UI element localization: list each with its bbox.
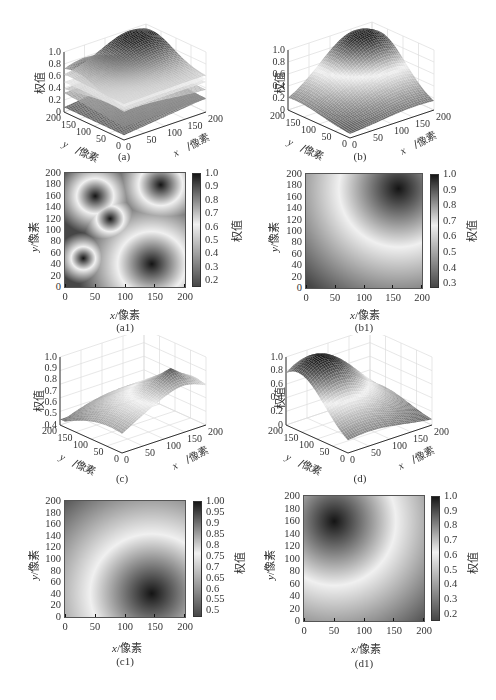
y-tick-label: 40 bbox=[276, 259, 302, 270]
x-tick-label: 100 bbox=[117, 621, 133, 632]
colorbar-tick-label: 1.0 bbox=[205, 167, 218, 178]
x-tick-label: 50 bbox=[90, 291, 101, 302]
colorbar-label: 权值 bbox=[463, 220, 479, 242]
y-tick-label: 180 bbox=[35, 507, 61, 518]
y-tick-label: 40 bbox=[274, 590, 300, 601]
colorbar-tick-label: 0.5 bbox=[205, 234, 218, 245]
y-tick-label: 140 bbox=[35, 201, 61, 212]
colorbar-tick-label: 0.2 bbox=[205, 274, 218, 285]
surface-plot-d bbox=[248, 335, 496, 495]
z-axis-label: 权值 bbox=[31, 72, 47, 94]
y-tick-label: 100 bbox=[274, 553, 300, 564]
y-axis-label: y/像素 bbox=[261, 550, 277, 580]
y-tick-label: 180 bbox=[274, 503, 300, 514]
y-tick-label: 160 bbox=[276, 191, 302, 202]
colorbar-label: 权值 bbox=[231, 552, 247, 574]
panel-b1: 020406080100120140160180200 050100150200… bbox=[248, 165, 496, 335]
y-tick-label: 80 bbox=[274, 565, 300, 576]
colorbar-tick-label: 0.3 bbox=[444, 593, 457, 604]
x-tick-label: 150 bbox=[147, 621, 163, 632]
y-axis-label: y/像素 bbox=[25, 550, 41, 580]
y-tick-label: 140 bbox=[276, 202, 302, 213]
colorbar-tick-label: 0.55 bbox=[206, 593, 224, 604]
y-axis-label: y/像素 bbox=[265, 222, 281, 252]
colorbar-tick-label: 0.7 bbox=[444, 534, 457, 545]
x-tick-label: 0 bbox=[301, 625, 306, 636]
z-axis-label: 权值 bbox=[30, 390, 46, 412]
y-tick-label: 200 bbox=[276, 168, 302, 179]
x-tick-label: 150 bbox=[385, 292, 401, 303]
colorbar-tick-label: 0.4 bbox=[444, 578, 457, 589]
colorbar-label: 权值 bbox=[228, 220, 244, 242]
colorbar-tick-label: 0.8 bbox=[206, 539, 219, 550]
y-tick-label: 40 bbox=[35, 258, 61, 269]
colorbar-label: 权值 bbox=[464, 552, 480, 574]
colorbar-tick-label: 0.9 bbox=[443, 184, 456, 195]
y-tick-label: 20 bbox=[276, 271, 302, 282]
y-tick-label: 60 bbox=[274, 578, 300, 589]
colorbar-tick-label: 0.6 bbox=[443, 230, 456, 241]
colorbar-c1 bbox=[193, 501, 202, 617]
heatmap-c1 bbox=[65, 501, 185, 617]
colorbar-tick-label: 0.5 bbox=[443, 246, 456, 257]
colorbar-tick-label: 0.3 bbox=[205, 261, 218, 272]
y-tick-label: 160 bbox=[35, 190, 61, 201]
colorbar-d1 bbox=[431, 496, 440, 621]
colorbar-tick-label: 1.00 bbox=[206, 495, 224, 506]
panel-a: 权值 (a) bbox=[0, 0, 248, 165]
x-tick-label: 0 bbox=[303, 292, 308, 303]
x-tick-label: 200 bbox=[414, 292, 430, 303]
x-tick-label: 50 bbox=[330, 292, 341, 303]
panel-d1: 020406080100120140160180200 050100150200… bbox=[248, 495, 496, 670]
caption-a: (a) bbox=[118, 150, 130, 162]
caption-c: (c) bbox=[116, 472, 128, 484]
panel-a1: 020406080100120140160180200 050100150200… bbox=[0, 165, 248, 335]
colorbar-tick-label: 0.7 bbox=[206, 561, 219, 572]
x-tick-label: 50 bbox=[90, 621, 101, 632]
colorbar-tick-label: 0.7 bbox=[443, 215, 456, 226]
x-axis-label: x/像素 bbox=[110, 306, 140, 322]
colorbar-tick-label: 0.5 bbox=[206, 604, 219, 615]
panel-b: 权值 (b) bbox=[248, 0, 496, 165]
y-tick-label: 0 bbox=[274, 615, 300, 626]
colorbar-tick-label: 0.4 bbox=[443, 262, 456, 273]
caption-b1: (b1) bbox=[355, 321, 373, 333]
caption-a1: (a1) bbox=[116, 321, 134, 333]
z-axis-label: 权值 bbox=[271, 72, 287, 94]
x-tick-label: 200 bbox=[416, 625, 432, 636]
x-axis-label: x/像素 bbox=[112, 639, 142, 655]
colorbar-tick-label: 0.65 bbox=[206, 572, 224, 583]
x-tick-label: 150 bbox=[386, 625, 402, 636]
y-tick-label: 140 bbox=[35, 530, 61, 541]
x-tick-label: 100 bbox=[117, 291, 133, 302]
colorbar-tick-label: 0.85 bbox=[206, 528, 224, 539]
y-tick-label: 120 bbox=[274, 540, 300, 551]
colorbar-tick-label: 0.9 bbox=[205, 180, 218, 191]
x-tick-label: 150 bbox=[147, 291, 163, 302]
x-axis-label: x/像素 bbox=[351, 640, 381, 656]
x-tick-label: 200 bbox=[177, 621, 193, 632]
heatmap-d1 bbox=[304, 496, 424, 621]
panel-c: 权值 (c) bbox=[0, 335, 248, 495]
colorbar-tick-label: 1.0 bbox=[443, 168, 456, 179]
y-tick-label: 160 bbox=[35, 518, 61, 529]
caption-d1: (d1) bbox=[355, 657, 373, 669]
colorbar-tick-label: 1.0 bbox=[444, 490, 457, 501]
heatmap-b1 bbox=[306, 174, 422, 288]
colorbar-tick-label: 0.75 bbox=[206, 550, 224, 561]
panel-d: 权值 (d) bbox=[248, 335, 496, 495]
y-axis-label: y/像素 bbox=[25, 222, 41, 252]
colorbar-tick-label: 0.8 bbox=[205, 194, 218, 205]
colorbar-tick-label: 0.9 bbox=[206, 517, 219, 528]
x-tick-label: 100 bbox=[356, 292, 372, 303]
y-tick-label: 20 bbox=[274, 603, 300, 614]
y-tick-label: 140 bbox=[274, 528, 300, 539]
caption-b: (b) bbox=[354, 150, 367, 162]
y-tick-label: 200 bbox=[35, 167, 61, 178]
panel-c1: 020406080100120140160180200 050100150200… bbox=[0, 495, 248, 670]
y-tick-label: 180 bbox=[35, 178, 61, 189]
colorbar-tick-label: 0.7 bbox=[205, 207, 218, 218]
colorbar-tick-label: 0.3 bbox=[443, 277, 456, 288]
colorbar-tick-label: 0.5 bbox=[444, 564, 457, 575]
y-tick-label: 0 bbox=[276, 282, 302, 293]
